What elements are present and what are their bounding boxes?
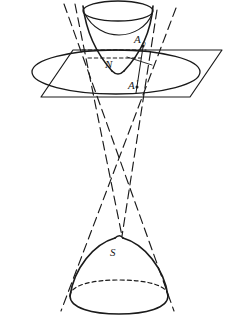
label-a-subscript: 0 (142, 40, 146, 48)
hyperboloid-diagram: A 0 N A ' S (0, 0, 231, 321)
label-s: S (110, 246, 116, 258)
label-n: N (104, 58, 113, 70)
label-a-prime: A (127, 79, 135, 91)
label-a-sub: A (133, 33, 141, 45)
figure-root: A 0 N A ' S (0, 0, 231, 321)
figure-background (0, 0, 231, 321)
